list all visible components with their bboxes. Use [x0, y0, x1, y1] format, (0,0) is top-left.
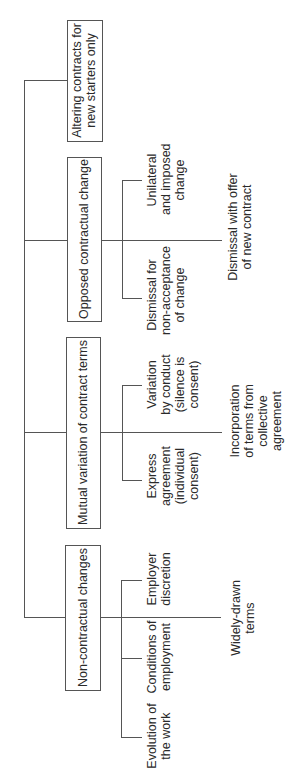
label-line: Mutual variation of contract terms — [76, 337, 90, 528]
label-line: discretion — [159, 551, 173, 607]
leaf-express-agreement: Express agreement (individual consent) — [145, 443, 201, 509]
label-line: non-acceptance — [159, 255, 173, 335]
label-line: Variation — [145, 347, 159, 422]
category-label-noncontractual: Non-contractual changes — [76, 545, 90, 690]
label-line: agreement — [159, 443, 173, 509]
label-line: (silence is — [173, 347, 187, 422]
label-line: Dismissal with offer — [226, 162, 240, 292]
contract-change-tree-diagram: Altering contracts for new starters only… — [0, 0, 296, 779]
leaf-employer-discretion: Employer discretion — [145, 551, 173, 607]
label-line: change — [173, 145, 187, 215]
category-label-altering: Altering contracts for new starters only — [70, 20, 98, 141]
extension-widely-drawn-terms: Widely-drawn terms — [229, 579, 257, 657]
label-line: Non-contractual changes — [76, 545, 90, 690]
label-line: consent) — [187, 347, 201, 422]
label-line: Altering contracts for — [70, 20, 84, 141]
leaf-unilateral-imposed-change: Unilateral and imposed change — [145, 145, 187, 215]
extension-incorporation-collective-agreement: Incorporation of terms from collective a… — [228, 381, 284, 461]
label-line: of change — [173, 255, 187, 335]
label-line: Widely-drawn — [229, 579, 243, 657]
label-line: agreement — [270, 381, 284, 461]
label-line: terms — [243, 579, 257, 657]
label-line: Dismissal for — [145, 255, 159, 335]
label-line: Evolution of — [145, 699, 159, 773]
category-label-opposed: Opposed contractual change — [77, 157, 91, 321]
leaf-conditions-of-employment: Conditions of employment — [145, 617, 173, 697]
label-line: Opposed contractual change — [77, 157, 91, 321]
label-line: Employer — [145, 551, 159, 607]
label-line: of terms from — [242, 381, 256, 461]
label-line: by conduct — [159, 347, 173, 422]
leaf-evolution-of-the-work: Evolution of the work — [145, 699, 173, 773]
label-line: of new contract — [240, 162, 254, 292]
label-line: and imposed — [159, 145, 173, 215]
label-line: Express — [145, 443, 159, 509]
label-line: consent) — [187, 443, 201, 509]
extension-dismissal-with-offer: Dismissal with offer of new contract — [226, 162, 254, 292]
leaf-variation-by-conduct: Variation by conduct (silence is consent… — [145, 347, 201, 422]
leaf-dismissal-non-acceptance: Dismissal for non-acceptance of change — [145, 255, 187, 335]
label-line: new starters only — [84, 20, 98, 141]
label-line: Unilateral — [145, 145, 159, 215]
label-line: the work — [159, 699, 173, 773]
label-line: Conditions of — [145, 617, 159, 697]
label-line: collective — [256, 381, 270, 461]
label-line: (individual — [173, 443, 187, 509]
category-label-mutual: Mutual variation of contract terms — [76, 337, 90, 528]
label-line: Incorporation — [228, 381, 242, 461]
label-line: employment — [159, 617, 173, 697]
